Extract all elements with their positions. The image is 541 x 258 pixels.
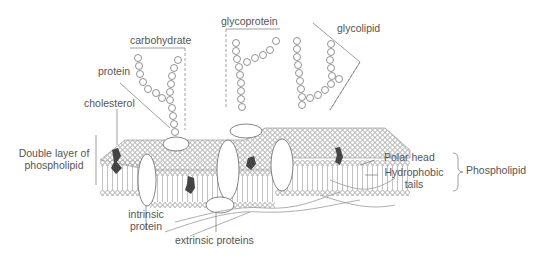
phospholipid-label: Phospholipid bbox=[466, 164, 526, 176]
hydrophobic-line2: tails bbox=[382, 178, 446, 190]
polar-head-label: Polar head bbox=[384, 151, 435, 163]
cholesterol-label: cholesterol bbox=[84, 97, 135, 109]
carbohydrate-chains bbox=[135, 38, 343, 136]
intrinsic-line2: protein bbox=[126, 220, 166, 232]
protein-label: protein bbox=[98, 65, 130, 77]
double-layer-line1: Double layer of bbox=[18, 147, 90, 159]
double-layer-label: Double layer of phospholipid bbox=[18, 147, 90, 171]
membrane-illustration bbox=[0, 0, 541, 258]
hydrophobic-tails-label: Hydrophobic tails bbox=[382, 166, 446, 190]
glycoprotein-label: glycoprotein bbox=[221, 15, 278, 27]
extrinsic-proteins-label: extrinsic proteins bbox=[175, 234, 254, 246]
membrane-diagram: carbohydrate glycoprotein glycolipid pro… bbox=[0, 0, 541, 258]
intrinsic-protein-label: intrinsic protein bbox=[126, 208, 166, 232]
carbohydrate-label: carbohydrate bbox=[130, 34, 191, 46]
hydrophobic-line1: Hydrophobic bbox=[382, 166, 446, 178]
glycolipid-label: glycolipid bbox=[337, 22, 380, 34]
double-layer-line2: phospholipid bbox=[18, 159, 90, 171]
intrinsic-line1: intrinsic bbox=[126, 208, 166, 220]
